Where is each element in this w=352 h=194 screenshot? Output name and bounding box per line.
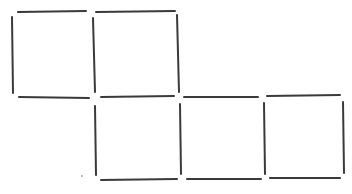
matchstick-h-top-1 — [18, 11, 86, 12]
matchstick-h-mid-2 — [101, 96, 174, 97]
matchstick-v-mid-1 — [93, 18, 95, 92]
matchstick-diagram — [0, 0, 352, 194]
matchstick-v-right-2 — [177, 15, 179, 92]
matchstick-h-mid-4 — [267, 95, 340, 96]
matchstick-h-mid-1 — [19, 97, 89, 98]
matchstick-h-bot-1 — [101, 179, 177, 180]
matchstick-v-b-3 — [264, 103, 265, 174]
matchstick-v-b-2 — [180, 104, 181, 174]
matchstick-v-b-1 — [95, 106, 96, 175]
matchstick-v-b-4 — [343, 102, 344, 173]
stray-mark — [81, 175, 83, 177]
matchstick-h-top-2 — [96, 11, 175, 12]
matchstick-v-left-1 — [12, 17, 13, 93]
